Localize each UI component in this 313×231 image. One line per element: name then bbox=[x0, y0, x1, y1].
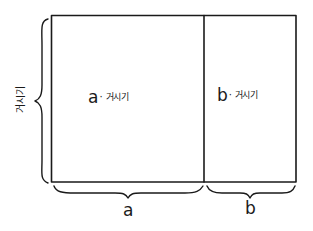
height-brace bbox=[35, 19, 48, 183]
width-label-b: b bbox=[245, 200, 256, 217]
area-diagram bbox=[0, 0, 313, 231]
region-a-var: a bbox=[88, 87, 98, 107]
height-label: 거시기 bbox=[16, 86, 26, 113]
width-brace-b bbox=[207, 186, 295, 198]
region-b-factor: 거시기 bbox=[235, 90, 258, 100]
width-brace-a bbox=[54, 186, 203, 198]
width-label-a: a bbox=[123, 202, 133, 219]
region-a-label: a·거시기 bbox=[88, 89, 128, 106]
region-b-var: b bbox=[217, 85, 228, 105]
region-a-factor: 거시기 bbox=[106, 92, 129, 102]
region-b-separator: · bbox=[229, 89, 232, 100]
region-b-label: b·거시기 bbox=[217, 87, 257, 104]
region-a-separator: · bbox=[99, 91, 102, 102]
